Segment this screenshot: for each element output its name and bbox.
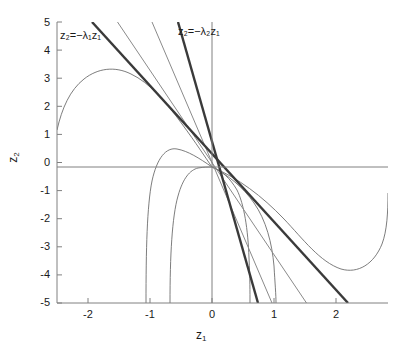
y-axis-title-base: z — [6, 157, 20, 163]
x-tick-label-0: 0 — [194, 308, 230, 320]
y-tick-label-1: 1 — [26, 128, 50, 140]
y-tick-label-neg3: -3 — [22, 240, 50, 252]
x-axis-title: z1 — [196, 328, 206, 343]
eigenline-2-label: z₂=−λ₂z₁ — [178, 25, 220, 37]
phase-portrait-figure: 5 4 3 2 1 0 -1 -2 -3 -4 -5 -2 -1 0 1 2 z… — [0, 0, 408, 354]
y-tick-label-0: 0 — [26, 156, 50, 168]
y-tick-label-3: 3 — [26, 72, 50, 84]
plot-canvas — [0, 0, 408, 354]
eigenline-1-label: z₂=−λ₁z₁ — [60, 29, 101, 41]
x-tick-label-1: 1 — [256, 308, 292, 320]
y-tick-label-neg4: -4 — [22, 268, 50, 280]
y-axis-title: z2 — [6, 152, 21, 162]
x-axis-title-subscript: 1 — [202, 334, 206, 343]
y-tick-label-neg5: -5 — [22, 296, 50, 308]
y-tick-label-2: 2 — [26, 100, 50, 112]
y-tick-label-neg2: -2 — [22, 212, 50, 224]
eigenline-2-label-text: z₂=−λ₂z₁ — [178, 25, 220, 37]
x-tick-label-neg2: -2 — [70, 308, 106, 320]
y-tick-label-neg1: -1 — [22, 184, 50, 196]
eigenline-1-label-text: z₂=−λ₁z₁ — [60, 29, 101, 41]
y-tick-label-5: 5 — [26, 16, 50, 28]
y-tick-label-4: 4 — [26, 44, 50, 56]
y-axis-title-subscript: 2 — [12, 152, 21, 156]
x-tick-label-2: 2 — [318, 308, 354, 320]
x-tick-label-neg1: -1 — [132, 308, 168, 320]
